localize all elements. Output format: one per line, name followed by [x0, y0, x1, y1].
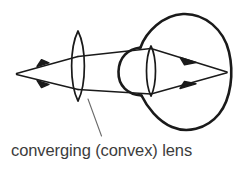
- lower-ray-segment-2: [78, 90, 151, 95]
- lower-ray-segment-1: [17, 75, 79, 90]
- converging-lens: [72, 31, 85, 101]
- eye-lens: [147, 46, 156, 96]
- converging-lens-shape: [72, 31, 85, 101]
- cornea-arc: [118, 48, 141, 96]
- caption-converging-convex-lens: converging (convex) lens: [11, 140, 233, 160]
- leader-line-group: [88, 99, 102, 136]
- caption-leader-line: [88, 99, 102, 136]
- eyeball-outline: [141, 14, 232, 130]
- eyeball-group: [141, 14, 232, 130]
- upper-ray-arrowhead-right: [180, 58, 196, 65]
- upper-ray-segment-2: [78, 49, 151, 57]
- figure-root: converging (convex) lens: [0, 0, 240, 171]
- eye-lens-shape: [147, 46, 156, 96]
- cornea-group: [118, 48, 141, 96]
- rays-group: [17, 49, 228, 95]
- upper-ray-segment-1: [17, 57, 79, 74]
